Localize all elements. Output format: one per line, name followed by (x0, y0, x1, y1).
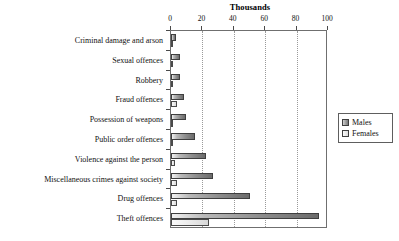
bar-males (171, 133, 195, 139)
bar-chart: Thousands Criminal damage and arsonSexua… (0, 0, 399, 241)
y-category-label: Criminal damage and arson (75, 35, 163, 44)
x-tick-mark-0 (170, 26, 171, 30)
y-category-label: Public order offences (95, 134, 163, 143)
legend-item-females: Females (342, 128, 389, 139)
bar-males (171, 114, 186, 120)
bar-males (171, 94, 184, 100)
gridline-80 (297, 31, 298, 227)
x-tick-mark-60 (264, 26, 265, 30)
x-tick-label-100: 100 (321, 14, 332, 23)
bar-males (171, 74, 180, 80)
y-category-label: Fraud offences (115, 95, 163, 104)
bar-males (171, 193, 250, 199)
plot-area (170, 30, 327, 228)
y-category-label: Theft offences (117, 214, 163, 223)
bar-females (171, 120, 173, 126)
bar-males (171, 153, 206, 159)
y-category-label: Possession of weapons (90, 115, 163, 124)
bar-females (171, 219, 209, 225)
bar-males (171, 54, 180, 60)
bar-males (171, 34, 176, 40)
x-tick-label-60: 60 (260, 14, 268, 23)
x-tick-label-20: 20 (198, 14, 206, 23)
y-category-label: Violence against the person (75, 154, 163, 163)
y-category-label: Miscellaneous crimes against society (44, 174, 163, 183)
bar-females (171, 41, 173, 47)
x-tick-mark-100 (327, 26, 328, 30)
y-axis: Criminal damage and arsonSexual offences… (0, 30, 170, 228)
bar-females (171, 61, 173, 67)
x-tick-mark-20 (201, 26, 202, 30)
x-tick-label-80: 80 (292, 14, 300, 23)
x-tick-mark-80 (296, 26, 297, 30)
legend-label: Females (352, 129, 379, 138)
bar-females (171, 140, 173, 146)
y-category-label: Robbery (135, 75, 163, 84)
x-tick-mark-40 (233, 26, 234, 30)
y-category-label: Sexual offences (112, 55, 163, 64)
legend-label: Males (352, 118, 372, 127)
chart-legend: MalesFemales (338, 113, 393, 143)
bar-females (171, 81, 173, 87)
bar-females (171, 200, 177, 206)
bar-males (171, 213, 319, 219)
bar-females (171, 180, 177, 186)
x-tick-label-40: 40 (229, 14, 237, 23)
gridline-60 (265, 31, 266, 227)
legend-swatch-icon (342, 119, 349, 126)
y-category-label: Drug offences (118, 194, 163, 203)
bar-males (171, 173, 213, 179)
bar-females (171, 101, 177, 107)
chart-title: Thousands (170, 2, 330, 12)
x-tick-label-0: 0 (168, 14, 172, 23)
bar-females (171, 160, 175, 166)
legend-swatch-icon (342, 130, 349, 137)
legend-item-males: Males (342, 117, 389, 128)
